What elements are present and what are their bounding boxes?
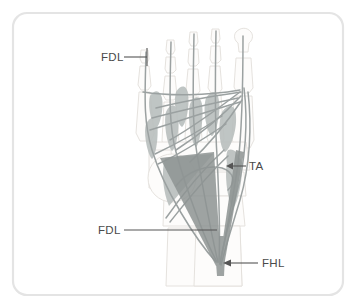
label-fdl-proximal: FDL — [101, 51, 124, 63]
label-fhl: FHL — [262, 257, 285, 269]
label-ta: TA — [249, 160, 263, 172]
label-fdl-distal: FDL — [98, 224, 121, 236]
foot-anatomy-diagram: FDL TA FDL FHL — [0, 0, 356, 308]
figure-root: FDL TA FDL FHL — [0, 0, 356, 308]
